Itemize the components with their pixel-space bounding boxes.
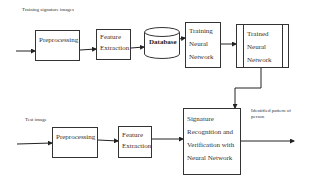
test-image-label: Test image <box>25 117 47 123</box>
signature-recognition-box: Signature Recognition and Verification w… <box>183 108 241 175</box>
trained-neural-network-label: Trained Neural Network <box>247 30 272 64</box>
train-preprocessing-box: Preprocessing <box>35 30 80 61</box>
trained-neural-network-box: Trained Neural Network <box>236 24 289 68</box>
database-label: Database <box>149 38 177 46</box>
identified-pattern-label: Identified pattern of person <box>251 108 301 120</box>
train-feature-extraction-box: Feature Extraction <box>96 29 131 60</box>
signature-recognition-diagram: Training signature images Preprocessing … <box>0 0 309 178</box>
box-inner-border-left <box>243 25 244 67</box>
test-feature-extraction-box: Feature Extraction <box>118 126 152 158</box>
training-images-label: Training signature images <box>22 7 74 13</box>
box-inner-border-right <box>282 25 283 67</box>
test-preprocessing-box: Preprocessing <box>52 127 98 158</box>
training-neural-network-box: Training Neural Network <box>185 22 221 68</box>
